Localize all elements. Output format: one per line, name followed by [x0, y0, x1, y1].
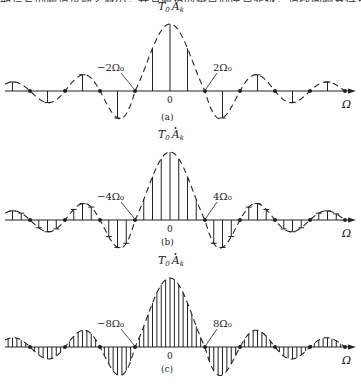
zero-left-label: −8Ω₀	[97, 318, 124, 329]
zero-crossing-dot	[28, 218, 32, 222]
zero-crossing-dot	[28, 345, 32, 349]
pointer-arrow-left	[121, 73, 134, 89]
zero-crossing-dot	[133, 345, 137, 349]
panel-caption: (c)	[161, 364, 173, 374]
zero-crossing-dot	[343, 218, 347, 222]
derivative-dot	[175, 253, 177, 255]
x-axis-label: Ω	[341, 354, 351, 367]
origin-label: 0	[167, 351, 173, 361]
pointer-arrow-left	[121, 329, 134, 345]
amplitude-label: T0Ak	[158, 254, 184, 268]
zero-crossing-dot	[98, 345, 102, 349]
zero-crossing-dot	[203, 345, 207, 349]
panel-caption: (b)	[161, 237, 174, 247]
zero-crossing-dot	[63, 218, 67, 222]
zero-crossing-dot	[203, 89, 207, 93]
pointer-arrow-right	[206, 202, 217, 218]
sinc-envelope-dashed	[5, 152, 344, 248]
zero-crossing-dot	[273, 218, 277, 222]
axis-arrow-icon	[348, 89, 356, 94]
panel-caption: (a)	[161, 112, 173, 122]
zero-crossing-dot	[98, 218, 102, 222]
zero-right-label: 2Ω₀	[213, 62, 232, 73]
zero-crossing-dot	[308, 218, 312, 222]
zero-crossing-dot	[133, 218, 137, 222]
axis-arrow-icon	[348, 345, 356, 350]
zero-left-label: −2Ω₀	[97, 62, 124, 73]
zero-crossing-dot	[273, 345, 277, 349]
zero-crossing-dot	[308, 89, 312, 93]
zero-right-label: 8Ω₀	[213, 318, 232, 329]
origin-label: 0	[167, 224, 173, 234]
zero-crossing-dot	[28, 89, 32, 93]
zero-crossing-dot	[203, 218, 207, 222]
zero-crossing-dot	[98, 89, 102, 93]
zero-crossing-dot	[343, 345, 347, 349]
zero-left-label: −4Ω₀	[97, 191, 124, 202]
zero-crossing-dot	[238, 345, 242, 349]
pointer-arrow-left	[121, 202, 134, 218]
zero-crossing-dot	[133, 89, 137, 93]
zero-right-label: 4Ω₀	[213, 191, 232, 202]
x-axis-label: Ω	[341, 98, 351, 111]
zero-crossing-dot	[238, 218, 242, 222]
pointer-arrow-right	[206, 329, 217, 345]
pointer-arrow-right	[206, 73, 217, 89]
origin-label: 0	[167, 95, 173, 105]
zero-crossing-dot	[238, 89, 242, 93]
zero-crossing-dot	[63, 89, 67, 93]
derivative-dot	[175, 127, 177, 129]
panel-c: T0Ak−8Ω₀8Ω₀0Ω(c)	[5, 253, 356, 375]
zero-crossing-dot	[343, 89, 347, 93]
zero-crossing-dot	[273, 89, 277, 93]
amplitude-label: T0Ak	[158, 128, 184, 142]
x-axis-label: Ω	[341, 227, 351, 240]
amplitude-label: T0Ak	[158, 0, 184, 14]
panel-b: T0Ak−4Ω₀4Ω₀0Ω(b)	[5, 127, 356, 248]
panel-a: T0Ak−2Ω₀2Ω₀0Ω(a)	[5, 0, 356, 122]
sinc-envelope-dashed	[5, 24, 344, 119]
axis-arrow-icon	[348, 218, 356, 223]
zero-crossing-dot	[63, 345, 67, 349]
spectrum-figure: T0Ak−2Ω₀2Ω₀0Ω(a) T0Ak−4Ω₀4Ω₀0Ω(b) T0Ak−8…	[0, 0, 361, 386]
zero-crossing-dot	[308, 345, 312, 349]
